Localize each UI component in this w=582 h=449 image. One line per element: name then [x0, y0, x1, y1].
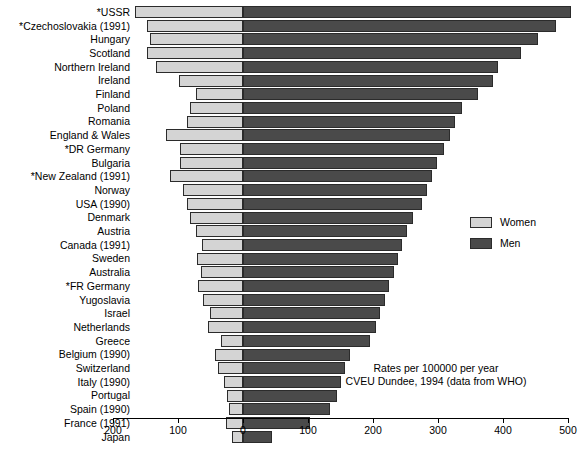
bar-women — [187, 116, 243, 128]
chart-row: USA (1990) — [0, 197, 582, 211]
bar-men — [243, 294, 385, 306]
bar-men — [243, 20, 556, 32]
chart-annotation: Rates per 100000 per year CVEU Dundee, 1… — [300, 362, 572, 388]
legend-swatch-icon — [470, 217, 492, 228]
bar-women — [166, 129, 243, 141]
category-label: *FR Germany — [66, 280, 130, 291]
bar-women — [147, 20, 243, 32]
bar-men — [243, 403, 330, 415]
bar-men — [243, 170, 432, 182]
bar-women — [150, 33, 243, 45]
axis-tick — [178, 418, 179, 423]
axis-tick-label: 500 — [559, 424, 577, 436]
bar-women — [190, 212, 243, 224]
bar-men — [243, 321, 376, 333]
axis-tick — [308, 418, 309, 423]
bar-women — [215, 349, 243, 361]
chart-row: Poland — [0, 101, 582, 115]
bar-men — [243, 6, 571, 18]
chart-row: *Czechoslovakia (1991) — [0, 19, 582, 33]
axis-line — [113, 418, 568, 419]
chart-row: *FR Germany — [0, 279, 582, 293]
bar-women — [198, 280, 243, 292]
bar-men — [243, 61, 498, 73]
axis-tick — [243, 418, 244, 423]
category-label: Romania — [88, 116, 130, 127]
bar-men — [243, 225, 407, 237]
bar-men — [243, 212, 413, 224]
category-label: Israel — [104, 308, 130, 319]
bar-women — [183, 184, 243, 196]
bar-men — [243, 280, 389, 292]
chart-row: Netherlands — [0, 320, 582, 334]
chart-row: Israel — [0, 306, 582, 320]
bar-men — [243, 253, 398, 265]
chart-row: *DR Germany — [0, 142, 582, 156]
legend-swatch-icon — [470, 238, 492, 249]
chart-row: Scotland — [0, 46, 582, 60]
axis-tick-label: 300 — [429, 424, 447, 436]
bar-women — [221, 335, 243, 347]
chart-row: England & Wales — [0, 128, 582, 142]
bar-women — [197, 253, 243, 265]
category-label: Austria — [97, 226, 130, 237]
category-label: Canada (1991) — [60, 239, 130, 250]
chart-row: *New Zealand (1991) — [0, 169, 582, 183]
bar-women — [180, 157, 243, 169]
axis-tick-label: 0 — [240, 424, 246, 436]
category-label: Australia — [89, 267, 130, 278]
chart-row: Greece — [0, 334, 582, 348]
bar-women — [201, 266, 243, 278]
axis-tick-label: 200 — [104, 424, 122, 436]
bar-men — [243, 143, 444, 155]
bar-women — [229, 403, 243, 415]
chart-row: Ireland — [0, 74, 582, 88]
category-label: *New Zealand (1991) — [31, 171, 130, 182]
bar-men — [243, 184, 427, 196]
bar-men — [243, 390, 337, 402]
category-label: Switzerland — [76, 363, 130, 374]
category-label: Netherlands — [73, 321, 130, 332]
category-label: Hungary — [90, 34, 130, 45]
chart-row: Romania — [0, 115, 582, 129]
axis-tick-label: 100 — [169, 424, 187, 436]
axis-tick — [113, 418, 114, 423]
chart-row: Belgium (1990) — [0, 348, 582, 362]
bar-men — [243, 349, 350, 361]
chart-page: *USSR*Czechoslovakia (1991)HungaryScotla… — [0, 0, 582, 449]
category-label: Portugal — [91, 390, 130, 401]
category-label: Norway — [94, 184, 130, 195]
axis-tick-label: 100 — [299, 424, 317, 436]
bar-men — [243, 33, 538, 45]
plot-area: *USSR*Czechoslovakia (1991)HungaryScotla… — [0, 0, 582, 421]
bar-men — [243, 102, 462, 114]
chart-row: Bulgaria — [0, 156, 582, 170]
bar-women — [147, 47, 243, 59]
category-label: Poland — [97, 102, 130, 113]
bar-men — [243, 47, 521, 59]
bar-men — [243, 307, 380, 319]
bar-men — [243, 198, 422, 210]
legend-label: Women — [500, 216, 536, 228]
bar-men — [243, 266, 394, 278]
category-label: Northern Ireland — [54, 61, 130, 72]
category-label: Finland — [96, 89, 130, 100]
chart-legend: WomenMen — [470, 214, 570, 256]
category-label: England & Wales — [50, 130, 130, 141]
category-label: Yugoslavia — [79, 294, 130, 305]
bar-women — [196, 88, 243, 100]
axis-tick — [438, 418, 439, 423]
bar-men — [243, 88, 478, 100]
chart-row: Portugal — [0, 389, 582, 403]
chart-row: Hungary — [0, 32, 582, 46]
category-label: Greece — [96, 335, 130, 346]
axis-tick — [568, 418, 569, 423]
category-label: USA (1990) — [76, 198, 130, 209]
bar-women — [224, 376, 243, 388]
legend-item: Men — [470, 235, 570, 251]
bar-women — [218, 362, 243, 374]
axis-tick-label: 200 — [364, 424, 382, 436]
category-label: Spain (1990) — [70, 404, 130, 415]
bar-women — [208, 321, 243, 333]
category-label: Bulgaria — [91, 157, 130, 168]
